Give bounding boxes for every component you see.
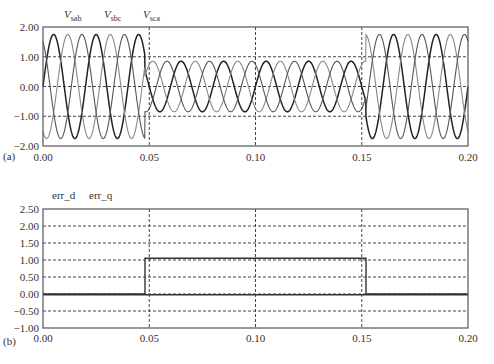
y-tick-label: −1.00 (14, 110, 40, 122)
y-tick-label: 1.50 (20, 237, 40, 249)
y-tick-label: 0.00 (20, 81, 40, 93)
y-tick-label: 0.50 (20, 271, 40, 283)
legend-label-sub: sab (71, 14, 82, 23)
panel-label: (a) (3, 150, 16, 163)
y-tick-label: 2.50 (20, 203, 40, 215)
x-tick-label: 0.00 (33, 151, 53, 163)
x-tick-label: 0.20 (458, 151, 478, 163)
x-tick-label: 0.20 (458, 332, 478, 344)
legend-label: err_d (52, 189, 76, 201)
x-tick-label: 0.10 (246, 332, 266, 344)
legend-label: err_q (89, 189, 113, 201)
legend-label: Vsab (64, 8, 81, 23)
y-tick-label: 1.00 (20, 51, 40, 63)
y-tick-label: 2.00 (20, 220, 40, 232)
panel-a: 2.001.000.00−1.00−2.000.000.050.100.150.… (3, 8, 478, 163)
panel-label: (b) (3, 335, 16, 348)
y-tick-label: 2.00 (20, 21, 40, 33)
legend-label: Vsca (143, 8, 160, 23)
x-tick-label: 0.15 (352, 151, 372, 163)
x-tick-label: 0.15 (352, 332, 372, 344)
legend-label-sub: sca (150, 14, 161, 23)
legend-label: Vsbc (104, 8, 122, 23)
x-tick-label: 0.00 (33, 332, 53, 344)
y-tick-label: 0.00 (20, 288, 40, 300)
chart-canvas: 2.001.000.00−1.00−2.000.000.050.100.150.… (0, 0, 494, 364)
panel-b: 2.502.001.501.000.500.00−0.50−1.000.000.… (3, 189, 478, 348)
x-tick-label: 0.05 (140, 332, 160, 344)
y-tick-label: 1.00 (20, 254, 40, 266)
x-tick-label: 0.05 (140, 151, 160, 163)
x-tick-label: 0.10 (246, 151, 266, 163)
legend-label-sub: sbc (111, 14, 122, 23)
y-tick-label: −0.50 (14, 305, 40, 317)
